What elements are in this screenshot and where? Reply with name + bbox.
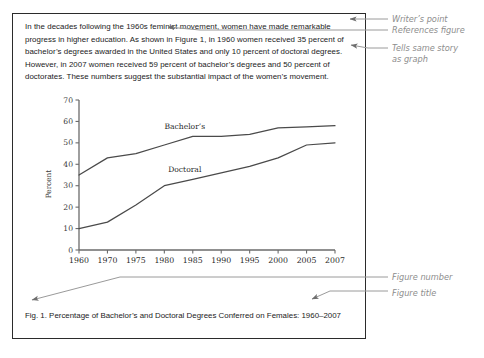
annotation-figure-title: Figure title: [392, 288, 436, 299]
paragraph-line: In the decades following the 1960s femin…: [25, 21, 357, 34]
series-line: [79, 126, 335, 175]
y-tick-label: 20: [63, 203, 73, 212]
annotation-tells-same-story: Tells same story: [392, 43, 458, 54]
x-tick-label: 1960: [69, 256, 89, 265]
figure-line-chart: 010203040506070 196019701975198019851990…: [35, 92, 357, 282]
y-tick-label: 70: [63, 96, 73, 105]
y-axis-title: Percent: [44, 170, 53, 198]
figure-caption: Fig. 1. Percentage of Bachelor’s and Doc…: [25, 310, 363, 321]
x-tick-label: 1975: [126, 256, 146, 265]
x-tick-label: 1990: [211, 256, 231, 265]
paragraph-line: bachelor’s degrees awarded in the United…: [25, 46, 357, 59]
y-tick-label: 30: [63, 181, 73, 190]
x-tick-label: 1995: [240, 256, 260, 265]
x-tick-label: 1985: [183, 256, 203, 265]
annotation-references-figure: References figure: [392, 25, 465, 36]
annotation-figure-number: Figure number: [392, 272, 452, 283]
x-tick-label: 1970: [98, 256, 118, 265]
y-tick-label: 0: [68, 246, 73, 255]
annotation-as-graph: as graph: [392, 54, 428, 65]
x-tick-label: 2007: [325, 256, 345, 265]
x-tick-label: 1980: [154, 256, 174, 265]
annotation-writers-point: Writer’s point: [392, 14, 448, 25]
x-axis-tick-labels: 1960197019751980198519901995200020052007: [69, 256, 345, 265]
chart-series: [79, 126, 335, 229]
y-tick-label: 40: [63, 160, 73, 169]
paragraph-line: However, in 2007 women received 59 perce…: [25, 59, 357, 72]
y-tick-label: 60: [63, 117, 73, 126]
body-paragraph: In the decades following the 1960s femin…: [25, 21, 357, 84]
x-tick-label: 2000: [268, 256, 288, 265]
series-line: [79, 143, 335, 229]
y-tick-label: 50: [63, 138, 73, 147]
document-panel: In the decades following the 1960s femin…: [12, 13, 366, 339]
chart-series-labels: Bachelor’sDoctoral: [164, 122, 205, 174]
x-tick-label: 2005: [297, 256, 317, 265]
screenshot-root: In the decades following the 1960s femin…: [0, 0, 484, 358]
series-label: Doctoral: [168, 165, 202, 174]
y-tick-label: 10: [63, 224, 73, 233]
y-axis-tick-labels: 010203040506070: [63, 96, 73, 255]
series-label: Bachelor’s: [164, 122, 205, 131]
paragraph-line: progress in higher education. As shown i…: [25, 34, 357, 47]
chart-svg: 010203040506070 196019701975198019851990…: [35, 92, 357, 282]
paragraph-line: doctorates. These numbers suggest the su…: [25, 71, 357, 84]
